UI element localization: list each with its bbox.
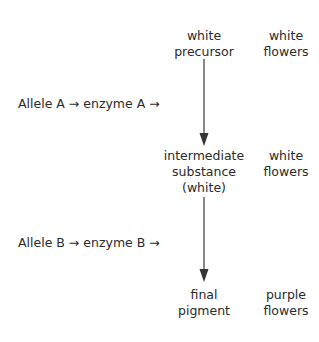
arrow-precursor-to-intermediate	[200, 59, 209, 146]
pathway-arrows	[0, 0, 319, 342]
arrow-intermediate-to-final	[200, 197, 209, 282]
